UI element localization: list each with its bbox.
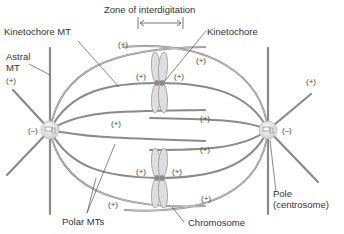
spindle-mts-right: [123, 46, 268, 211]
label-kinetochore-mt: Kinetochore MT: [4, 26, 71, 37]
plus-end-7: (+): [200, 145, 210, 154]
label-zone-of-interdigitation: Zone of interdigitation: [104, 4, 195, 15]
plus-end-astral-left: (+): [6, 76, 16, 85]
centrosome-left: [41, 121, 59, 139]
plus-end-8: (+): [136, 167, 146, 176]
leader-polar-2: [87, 178, 96, 213]
plus-end-4: (+): [174, 72, 184, 81]
plus-end-11: (+): [201, 194, 211, 203]
leader-kinetochore-mt: [78, 41, 119, 87]
label-polar-mts: Polar MTs: [62, 216, 104, 227]
label-pole: Pole: [273, 188, 292, 199]
label-centrosome: (centrosome): [273, 199, 329, 210]
plus-end-9: (+): [172, 167, 182, 176]
label-astral: Astral: [6, 51, 30, 62]
plus-end-6: (+): [111, 119, 121, 128]
leader-pole: [270, 140, 276, 192]
leader-astral-mt: [29, 64, 50, 75]
zone-bracket: [138, 17, 183, 29]
plus-end-2: (+): [136, 72, 146, 81]
plus-end-1: (+): [118, 40, 128, 49]
spindle-mts-left: [50, 47, 205, 206]
plus-end-3: (+): [196, 56, 206, 65]
minus-end-left: (–): [28, 126, 38, 135]
minus-end-right: (–): [282, 126, 292, 135]
plus-end-10: (+): [108, 200, 118, 209]
mitotic-spindle-diagram: Zone of interdigitation Kinetochore MT K…: [0, 0, 344, 234]
centrosome-right: [259, 121, 277, 139]
label-kinetochore: Kinetochore: [207, 26, 258, 37]
label-astral-mt: MT: [6, 62, 20, 73]
plus-end-5: (+): [200, 114, 210, 123]
label-chromosome: Chromosome: [188, 217, 245, 228]
plus-end-astral-right: (+): [306, 77, 316, 86]
